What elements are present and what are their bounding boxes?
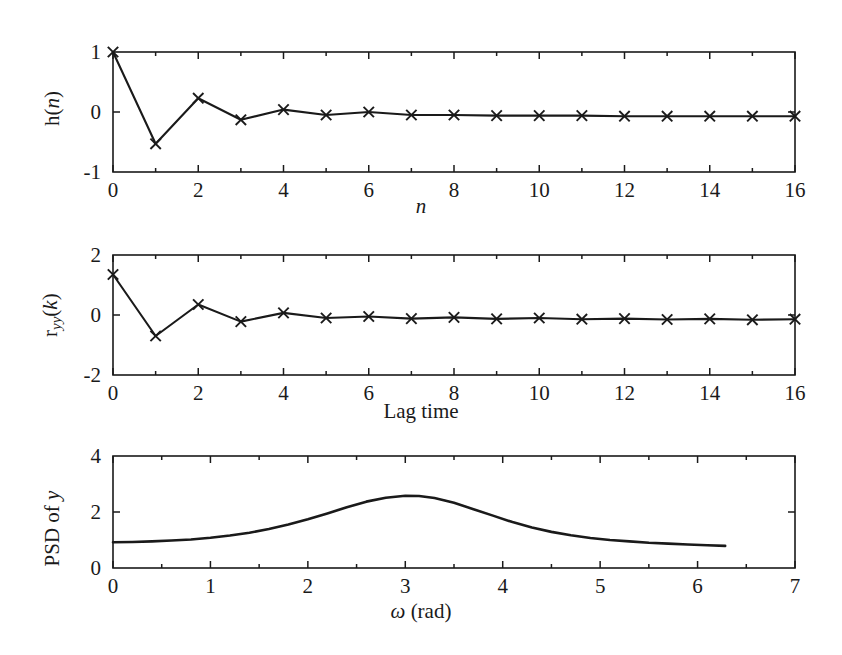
plot-frame xyxy=(113,52,795,172)
panel-impulse-response: h(n) 0246810121416-101 n xyxy=(0,0,842,222)
plot-area-psd: 01234567024 xyxy=(0,428,842,628)
y-tick-label: 1 xyxy=(91,40,102,64)
plot-area-autocorrelation: 0246810121416-202 xyxy=(0,205,842,427)
y-tick-label: 2 xyxy=(91,243,102,267)
x-tick-label: 2 xyxy=(303,574,314,598)
panel-psd: PSD of y 01234567024 ω (rad) xyxy=(0,428,842,655)
data-series xyxy=(113,275,795,337)
x-axis-label-autocorr: Lag time xyxy=(0,401,842,422)
x-tick-label: 4 xyxy=(497,574,508,598)
data-markers xyxy=(108,47,800,149)
plot-frame xyxy=(113,255,795,375)
plot-area-impulse-response: 0246810121416-101 xyxy=(0,0,842,222)
y-tick-label: 0 xyxy=(91,303,102,327)
y-axis-label-autocorr-text: ryy(k) xyxy=(38,293,62,337)
panel-autocorrelation: ryy(k) 0246810121416-202 Lag time xyxy=(0,205,842,427)
x-tick-label: 0 xyxy=(108,574,119,598)
y-tick-label: 2 xyxy=(91,500,102,524)
data-series xyxy=(113,496,725,546)
x-axis-label-autocorr-text: Lag time xyxy=(383,399,458,423)
y-tick-label: 0 xyxy=(91,100,102,124)
data-series xyxy=(113,52,795,144)
data-markers xyxy=(108,269,800,341)
figure-container: h(n) 0246810121416-101 n ryy(k) 02468101… xyxy=(0,0,842,655)
x-tick-label: 3 xyxy=(400,574,411,598)
y-axis-label-impulse-text: h(n) xyxy=(40,91,64,126)
y-axis-label-autocorr: ryy(k) xyxy=(40,245,64,385)
x-axis-label-psd: ω (rad) xyxy=(0,601,842,622)
y-tick-label: -1 xyxy=(84,160,102,184)
x-tick-label: 7 xyxy=(790,574,801,598)
y-axis-label-psd: PSD of y xyxy=(42,449,63,609)
y-tick-label: -2 xyxy=(84,363,102,387)
x-tick-label: 6 xyxy=(692,574,703,598)
y-tick-label: 0 xyxy=(91,556,102,580)
x-axis-label-psd-text: ω (rad) xyxy=(391,599,452,623)
y-axis-label-psd-text: PSD of y xyxy=(40,491,64,567)
x-tick-label: 1 xyxy=(205,574,216,598)
y-axis-label-impulse: h(n) xyxy=(42,49,63,169)
plot-frame xyxy=(113,456,795,568)
x-tick-label: 5 xyxy=(595,574,606,598)
y-tick-label: 4 xyxy=(91,444,102,468)
